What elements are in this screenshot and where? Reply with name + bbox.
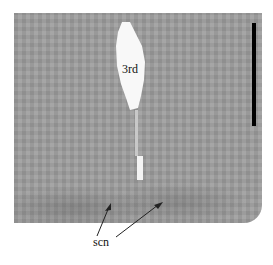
label-3rd-ventricle: 3rd	[122, 62, 138, 77]
figure: 3rd scn	[0, 0, 273, 265]
arrow-head-right	[154, 202, 163, 209]
ventricle-lower-slit	[137, 156, 143, 180]
scale-bar	[252, 23, 256, 126]
scn-arrow-right	[116, 205, 158, 237]
overlay	[0, 0, 273, 265]
label-scn: scn	[93, 235, 109, 250]
ventricle-channel	[135, 110, 138, 156]
scn-arrow-left	[97, 207, 109, 236]
arrow-head-left	[105, 203, 111, 211]
